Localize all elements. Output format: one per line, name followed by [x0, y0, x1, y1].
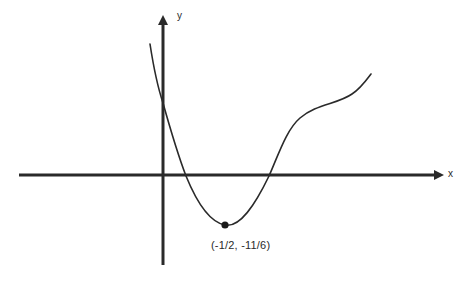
function-curve [150, 44, 371, 225]
y-axis-arrow-icon [158, 15, 168, 25]
x-axis-arrow-icon [434, 170, 444, 180]
minimum-point-marker [221, 221, 228, 228]
y-axis-label: y [177, 10, 182, 21]
graph-figure: y x (-1/2, -11/6) [0, 0, 470, 281]
x-axis-label: x [448, 168, 453, 179]
minimum-point-label: (-1/2, -11/6) [211, 239, 270, 251]
